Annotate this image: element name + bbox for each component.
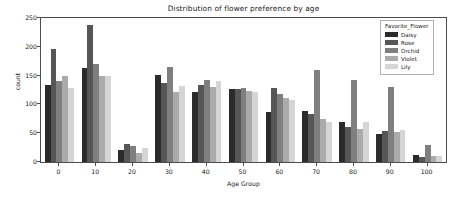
legend-swatch-icon (385, 48, 398, 53)
y-tick-label: 250 (15, 14, 37, 21)
y-tick-label: 0 (15, 158, 37, 165)
x-tick-mark (427, 163, 428, 166)
legend-item-rose: Rose (385, 39, 429, 47)
x-tick-label: 70 (301, 168, 331, 175)
x-tick-mark (206, 163, 207, 166)
legend-label: Rose (401, 39, 414, 47)
bar-lily-40 (216, 81, 222, 162)
x-tick-label: 20 (117, 168, 147, 175)
x-tick-label: 40 (191, 168, 221, 175)
legend-title: Favorite_Flower (385, 23, 429, 29)
bar-lily-20 (142, 148, 148, 162)
y-axis-label: count (14, 52, 21, 112)
x-tick-label: 100 (412, 168, 442, 175)
x-tick-mark (390, 163, 391, 166)
bar-lily-0 (68, 88, 74, 162)
x-tick-label: 80 (338, 168, 368, 175)
x-axis-label: Age Group (40, 180, 447, 187)
x-tick-mark (353, 163, 354, 166)
y-tick-label: 50 (15, 129, 37, 136)
legend-item-orchid: Orchid (385, 47, 429, 55)
chart-title: Distribution of flower preference by age (40, 4, 447, 13)
x-tick-mark (58, 163, 59, 166)
legend-swatch-icon (385, 40, 398, 45)
legend-label: Violet (401, 55, 417, 63)
legend-item-violet: Violet (385, 55, 429, 63)
bar-lily-30 (179, 86, 185, 162)
x-tick-mark (243, 163, 244, 166)
x-tick-label: 0 (43, 168, 73, 175)
legend-item-lily: Lily (385, 63, 429, 71)
x-tick-label: 30 (154, 168, 184, 175)
bar-lily-10 (105, 76, 111, 162)
legend-label: Orchid (401, 47, 419, 55)
x-tick-mark (95, 163, 96, 166)
x-tick-mark (316, 163, 317, 166)
x-tick-mark (132, 163, 133, 166)
legend-swatch-icon (385, 32, 398, 37)
x-tick-label: 60 (264, 168, 294, 175)
bar-lily-70 (326, 122, 332, 162)
legend-item-daisy: Daisy (385, 31, 429, 39)
x-axis-ticks: 0102030405060708090100 (40, 163, 447, 179)
y-tick-label: 200 (15, 42, 37, 49)
bar-lily-100 (436, 156, 442, 162)
x-tick-label: 90 (375, 168, 405, 175)
bar-lily-50 (252, 92, 258, 162)
bar-lily-60 (289, 100, 295, 162)
legend-swatch-icon (385, 64, 398, 69)
x-tick-label: 10 (80, 168, 110, 175)
x-tick-mark (169, 163, 170, 166)
legend-label: Lily (401, 63, 411, 71)
x-tick-mark (279, 163, 280, 166)
legend: Favorite_Flower DaisyRoseOrchidVioletLil… (380, 20, 434, 75)
bar-lily-80 (363, 122, 369, 162)
bar-lily-90 (400, 130, 406, 162)
legend-entries: DaisyRoseOrchidVioletLily (385, 31, 429, 71)
chart-figure: Distribution of flower preference by age… (0, 0, 462, 198)
legend-label: Daisy (401, 31, 417, 39)
legend-swatch-icon (385, 56, 398, 61)
x-tick-label: 50 (228, 168, 258, 175)
